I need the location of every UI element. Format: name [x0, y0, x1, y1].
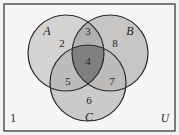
venn-diagram-figure: 2384576 ABC 1U — [0, 0, 179, 135]
outside-count-label: 1 — [10, 112, 16, 124]
region-count-A-and-B: 3 — [85, 25, 91, 37]
region-count-A-only: 2 — [59, 37, 65, 49]
region-count-C-only: 6 — [86, 94, 92, 106]
set-label-a: A — [42, 24, 51, 38]
region-count-A-and-C: 5 — [65, 75, 71, 87]
venn-diagram-canvas: 2384576 ABC 1U — [0, 0, 179, 135]
set-label-c: C — [85, 110, 94, 124]
region-count-B-and-C: 7 — [109, 75, 115, 87]
region-count-A-B-C: 4 — [85, 55, 91, 67]
region-count-B-only: 8 — [112, 37, 118, 49]
universe-label: U — [161, 112, 170, 124]
set-label-b: B — [126, 24, 134, 38]
